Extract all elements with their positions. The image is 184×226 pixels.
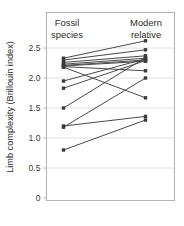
column-header-left-line1: Fossil: [55, 17, 79, 28]
column-header-right-line2: relative: [131, 29, 161, 40]
data-point-marker: [62, 66, 65, 69]
data-point-marker: [62, 106, 65, 109]
data-point-marker: [62, 79, 65, 82]
y-axis-label-text: Limb complexity (Brillouin index): [5, 41, 15, 173]
data-point-marker: [62, 148, 65, 151]
column-header-left-line2: species: [51, 29, 83, 40]
y-axis-ticks: 00.51.01.52.02.5: [29, 43, 47, 203]
y-axis-label: Limb complexity (Brillouin index): [5, 41, 15, 173]
y-tick-label: 2.0: [29, 73, 41, 83]
data-point-marker: [144, 48, 147, 51]
slope-line: [64, 50, 146, 60]
data-point-marker: [62, 87, 65, 90]
y-tick-label: 1.5: [29, 103, 41, 113]
slope-chart-svg: 00.51.01.52.02.5 Limb complexity (Brillo…: [0, 0, 184, 226]
data-point-marker: [144, 56, 147, 59]
slope-line: [64, 41, 146, 58]
y-tick-label: 0: [36, 193, 41, 203]
slope-lines: [64, 41, 146, 150]
column-header-left: Fossil species: [51, 17, 83, 40]
data-point-marker: [144, 59, 147, 62]
data-point-marker: [144, 69, 147, 72]
y-tick-label: 0.5: [29, 163, 41, 173]
data-point-marker: [144, 96, 147, 99]
data-point-marker: [62, 126, 65, 129]
y-tick-label: 1.0: [29, 133, 41, 143]
slope-line: [64, 78, 146, 127]
column-header-right-line1: Modern: [130, 17, 162, 28]
y-tick-label: 2.5: [29, 43, 41, 53]
data-point-marker: [144, 118, 147, 121]
column-header-right: Modern relative: [130, 17, 162, 40]
data-point-marker: [144, 76, 147, 79]
data-point-marker: [144, 115, 147, 118]
chart-figure: 00.51.01.52.02.5 Limb complexity (Brillo…: [0, 0, 184, 226]
